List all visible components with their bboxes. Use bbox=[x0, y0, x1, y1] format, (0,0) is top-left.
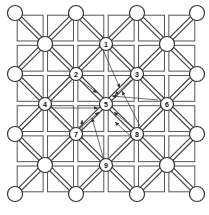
game-board-diagram: 123456789 bbox=[0, 0, 209, 215]
arrow bbox=[50, 106, 98, 110]
empty-node bbox=[190, 187, 205, 202]
node-label: 1 bbox=[104, 41, 108, 48]
empty-node bbox=[190, 127, 205, 142]
empty-node bbox=[8, 67, 23, 82]
empty-node bbox=[8, 127, 23, 142]
empty-node bbox=[8, 6, 23, 21]
labeled-node-9: 9 bbox=[100, 159, 113, 172]
labeled-node-4: 4 bbox=[39, 98, 52, 111]
labeled-node-8: 8 bbox=[131, 128, 144, 141]
empty-node bbox=[160, 37, 175, 52]
node-label: 4 bbox=[43, 101, 47, 108]
empty-node bbox=[38, 158, 53, 173]
arrow bbox=[112, 95, 158, 100]
node-label: 5 bbox=[104, 101, 108, 108]
arrow bbox=[80, 80, 97, 93]
node-label: 6 bbox=[165, 101, 169, 108]
empty-node bbox=[160, 158, 175, 173]
node-label: 8 bbox=[135, 131, 139, 138]
empty-node bbox=[130, 187, 145, 202]
node-label: 7 bbox=[74, 131, 78, 138]
arrow bbox=[80, 112, 99, 128]
labeled-node-5: 5 bbox=[100, 98, 113, 111]
empty-node bbox=[69, 187, 84, 202]
empty-node bbox=[130, 6, 145, 21]
labeled-node-2: 2 bbox=[70, 68, 83, 81]
node-label: 2 bbox=[74, 71, 78, 78]
arrowhead-icon bbox=[80, 120, 84, 124]
labeled-node-1: 1 bbox=[100, 38, 113, 51]
node-label: 3 bbox=[135, 71, 139, 78]
empty-node bbox=[190, 67, 205, 82]
labeled-node-6: 6 bbox=[161, 98, 174, 111]
node-label: 9 bbox=[104, 162, 108, 169]
labeled-node-7: 7 bbox=[70, 128, 83, 141]
empty-node bbox=[69, 6, 84, 21]
empty-node bbox=[190, 6, 205, 21]
empty-node bbox=[38, 37, 53, 52]
empty-node bbox=[8, 187, 23, 202]
labeled-node-3: 3 bbox=[131, 68, 144, 81]
